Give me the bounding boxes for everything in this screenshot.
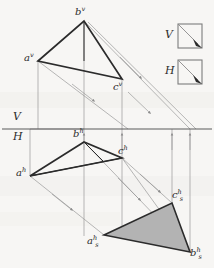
legend-boxes	[178, 24, 202, 84]
horizontal-projection-triangle	[30, 142, 122, 176]
point-label-c-h: ch	[118, 146, 128, 156]
rabatted-triangle-shape	[104, 203, 190, 252]
projection-diagram	[0, 0, 214, 268]
ground-line-label-v: V	[13, 111, 21, 122]
legend-label-v: V	[165, 29, 173, 40]
point-label-cs-h: chs	[172, 190, 183, 200]
point-label-as-h: ahs	[87, 236, 99, 246]
point-label-b-h: bh	[73, 129, 84, 139]
point-label-a-v: av	[24, 53, 34, 63]
point-label-b-v: bv	[75, 7, 85, 17]
legend-label-h: H	[165, 65, 175, 76]
point-label-c-v: cv	[113, 82, 122, 92]
point-label-a-h: ah	[16, 168, 26, 178]
drawing-canvas: V H av bv cv ah bh ch ahs bhs chs V H	[0, 0, 214, 268]
point-label-bs-h: bhs	[190, 248, 202, 258]
ground-line-label-h: H	[13, 131, 23, 142]
paper-texture	[0, 92, 214, 226]
